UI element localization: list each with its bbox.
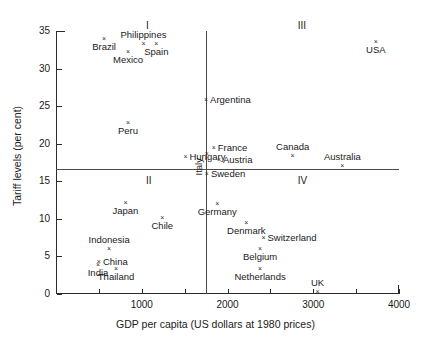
data-point-label: Japan	[113, 206, 139, 216]
cross-marker-icon: ×	[290, 153, 296, 159]
data-point-label: USA	[366, 45, 386, 55]
cross-marker-icon: ×	[203, 97, 209, 103]
data-point-label: Argentina	[210, 95, 251, 105]
x-minor-tick	[99, 289, 100, 293]
data-point-label: Mexico	[113, 55, 143, 65]
cross-marker-icon: ×	[216, 157, 222, 163]
y-tick-label: 15	[20, 176, 50, 186]
y-tick-label: 25	[20, 101, 50, 111]
x-axis-title: GDP per capita (US dollars at 1980 price…	[0, 318, 431, 330]
data-point-label: Chile	[152, 221, 174, 231]
cross-marker-icon: ×	[261, 235, 267, 241]
data-point-label: France	[218, 143, 248, 153]
y-tick-label: 20	[20, 139, 50, 149]
x-tick	[399, 289, 400, 294]
data-point-label: Brazil	[92, 42, 116, 52]
data-point-label: Peru	[118, 126, 138, 136]
quadrant-label-iv: IV	[298, 176, 307, 186]
y-tick-label: 30	[20, 64, 50, 74]
x-minor-tick	[185, 289, 186, 293]
x-tick-label: 1000	[119, 300, 165, 310]
y-axis-title: Tariff levels (per cent)	[11, 81, 23, 231]
x-tick-label: 2000	[205, 300, 251, 310]
y-tick-label: 0	[20, 289, 50, 299]
data-point-label: Canada	[276, 142, 309, 152]
x-minor-tick	[270, 289, 271, 293]
data-point-label: Germany	[198, 207, 237, 217]
data-point-label: Philippines	[120, 30, 166, 40]
x-tick	[228, 289, 229, 294]
quadrant-label-iii: III	[298, 21, 306, 31]
cross-marker-icon: ×	[204, 151, 210, 157]
y-tick	[57, 181, 62, 182]
data-point-label: Belgium	[243, 252, 277, 262]
data-point-label: UK	[311, 278, 324, 288]
data-point-label: Indonesia	[89, 235, 130, 245]
data-point-label: Switzerland	[268, 233, 317, 243]
cross-marker-icon: ×	[315, 289, 321, 295]
data-point-label: Sweden	[211, 169, 245, 179]
data-point-label: Australia	[324, 152, 361, 162]
y-tick-label: 35	[20, 26, 50, 36]
cross-marker-icon: ×	[182, 154, 188, 160]
x-tick-label: 3000	[290, 300, 336, 310]
cross-marker-icon: ×	[339, 163, 345, 169]
scatter-plot-figure: 051015202530351000200030004000 IIIIIIIV …	[0, 0, 431, 342]
data-point-label: Spain	[144, 47, 168, 57]
quadrant-label-ii: II	[146, 176, 152, 186]
y-tick	[57, 219, 62, 220]
y-tick	[57, 144, 62, 145]
y-tick	[57, 69, 62, 70]
y-tick-label: 5	[20, 251, 50, 261]
cross-marker-icon: ×	[106, 246, 112, 252]
y-tick	[57, 106, 62, 107]
data-point-label: Thailand	[98, 272, 134, 282]
y-tick	[57, 31, 62, 32]
vertical-divider-line	[206, 31, 207, 294]
y-tick-label: 10	[20, 214, 50, 224]
x-tick-label: 4000	[376, 300, 422, 310]
x-tick	[142, 289, 143, 294]
x-minor-tick	[356, 289, 357, 293]
data-point-label: Austria	[223, 155, 253, 165]
cross-marker-icon: ×	[204, 171, 210, 177]
cross-marker-icon: ×	[211, 145, 217, 151]
data-point-label: Netherlands	[234, 272, 285, 282]
y-tick	[57, 294, 62, 295]
y-tick	[57, 256, 62, 257]
